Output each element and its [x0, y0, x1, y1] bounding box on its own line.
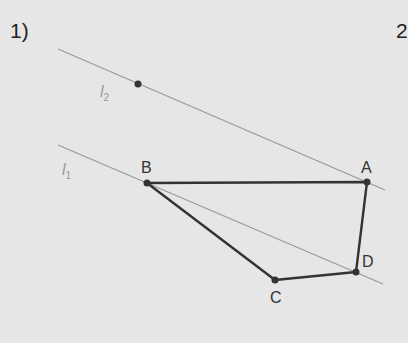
vertex-c-dot	[272, 277, 279, 284]
vertex-label-b: B	[141, 160, 152, 176]
vertex-a-dot	[364, 179, 371, 186]
line-label-l1: l1	[62, 162, 71, 181]
vertex-label-c: C	[270, 290, 282, 306]
line-label-l2: l2	[100, 84, 109, 103]
problem-number-1: 1)	[10, 20, 29, 41]
vertex-label-d: D	[362, 254, 374, 270]
point-on-l2	[135, 81, 142, 88]
vertex-d-dot	[353, 269, 360, 276]
problem-number-2: 2	[396, 20, 408, 41]
line-subscript: 1	[66, 170, 72, 181]
line-l1	[58, 145, 383, 284]
vertex-b-dot	[144, 180, 151, 187]
vertex-label-a: A	[361, 160, 372, 176]
line-subscript: 2	[104, 92, 110, 103]
diagram: 1) 2 l2 l1 A B C D	[0, 0, 408, 343]
line-l2	[58, 49, 385, 190]
